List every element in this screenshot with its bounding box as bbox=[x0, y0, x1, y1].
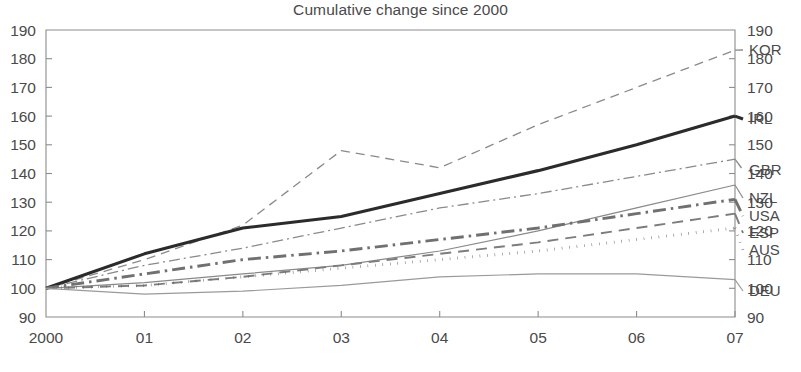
series-leader-gbr bbox=[735, 159, 743, 170]
series-label-usa: USA bbox=[749, 207, 780, 224]
x-axis: 200001020304050607 bbox=[29, 311, 744, 346]
cumulative-change-chart: Cumulative change since 2000 19018017016… bbox=[0, 0, 801, 372]
series-label-irl: IRL bbox=[749, 110, 772, 127]
series-line-gbr bbox=[46, 159, 735, 288]
y-axis-left-tick-label: 160 bbox=[10, 108, 36, 125]
y-axis-left-tick-label: 110 bbox=[11, 251, 36, 268]
y-axis-left-tick-label: 170 bbox=[10, 79, 36, 96]
x-axis-tick-label: 05 bbox=[530, 329, 547, 346]
y-axis-left-tick-label: 100 bbox=[10, 280, 36, 297]
series-label-esp: ESP bbox=[749, 224, 779, 241]
y-axis-right-tick-label: 150 bbox=[747, 136, 773, 153]
series-leader-nzl bbox=[735, 185, 743, 198]
y-axis-left-tick-label: 180 bbox=[10, 50, 36, 67]
series-leader-usa bbox=[735, 199, 743, 216]
series-leader-deu bbox=[735, 280, 743, 291]
x-axis-tick-label: 03 bbox=[333, 329, 350, 346]
y-axis-left-tick-label: 120 bbox=[10, 222, 36, 239]
y-axis-left-tick-label: 140 bbox=[10, 165, 36, 182]
x-axis-tick-label: 02 bbox=[234, 329, 251, 346]
y-axis-right-tick-label: 90 bbox=[747, 309, 765, 326]
series-label-aus: AUS bbox=[749, 241, 780, 258]
series-lines bbox=[46, 50, 743, 294]
series-line-deu bbox=[46, 274, 735, 294]
x-axis-tick-label: 2000 bbox=[29, 329, 64, 346]
x-axis-tick-label: 07 bbox=[726, 329, 743, 346]
series-leader-irl bbox=[735, 116, 743, 119]
series-line-usa bbox=[46, 199, 735, 288]
y-axis-left-tick-label: 150 bbox=[10, 136, 36, 153]
series-label-nzl: NZL bbox=[749, 189, 777, 206]
y-axis-right-tick-label: 190 bbox=[747, 22, 773, 39]
x-axis-tick-label: 06 bbox=[628, 329, 645, 346]
y-axis-left-tick-label: 90 bbox=[19, 309, 37, 326]
x-axis-tick-label: 04 bbox=[431, 329, 449, 346]
y-axis-left-tick-label: 130 bbox=[10, 194, 36, 211]
series-label-gbr: GBR bbox=[749, 161, 782, 178]
series-label-kor: KOR bbox=[749, 41, 782, 58]
series-label-deu: DEU bbox=[749, 282, 781, 299]
chart-plot-area: 19018017016015014013012011010090 1901801… bbox=[0, 0, 801, 372]
y-axis-right-tick-label: 170 bbox=[747, 79, 773, 96]
x-axis-tick-label: 01 bbox=[136, 329, 153, 346]
series-line-irl bbox=[46, 116, 735, 288]
y-axis-left-tick-label: 190 bbox=[10, 22, 36, 39]
series-leader-esp bbox=[735, 214, 743, 233]
